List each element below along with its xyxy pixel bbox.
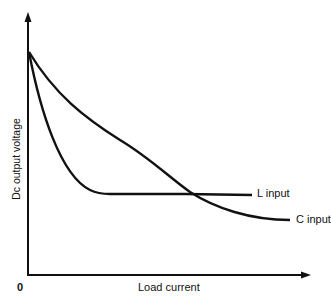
y-axis-label: Dc output voltage xyxy=(10,109,22,209)
x-axis-arrow-icon xyxy=(301,272,311,279)
origin-label: 0 xyxy=(17,281,23,293)
x-axis-label: Load current xyxy=(138,281,200,293)
chart-canvas xyxy=(0,0,331,300)
c-input-label: C input xyxy=(296,213,331,225)
l-input-curve xyxy=(29,52,252,195)
y-axis-arrow-icon xyxy=(25,12,32,22)
l-input-label: L input xyxy=(257,187,290,199)
